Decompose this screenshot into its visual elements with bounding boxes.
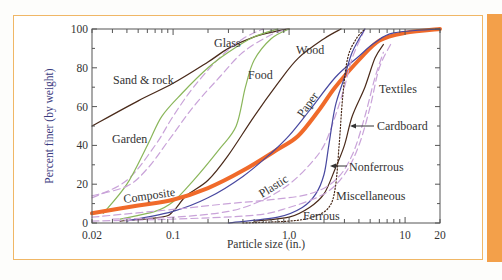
x-tick-label: 20 (434, 229, 446, 241)
label-food: Food (248, 68, 273, 82)
x-tick-label: 0.02 (82, 229, 102, 241)
y-tick-label: 100 (71, 23, 89, 35)
label-wood: Wood (296, 43, 324, 57)
x-tick-label: 10 (399, 229, 411, 241)
y-tick-label: 20 (77, 178, 89, 190)
label-textiles: Textiles (379, 82, 417, 96)
y-tick-label: 80 (77, 62, 89, 74)
label-miscellaneous: Miscellaneous (336, 189, 406, 203)
nonferrous-arrowhead (330, 164, 336, 169)
label-ferrous: Ferrous (303, 209, 340, 223)
label-cardboard: Cardboard (377, 119, 428, 133)
x-tick-label: 0.1 (166, 229, 181, 241)
x-axis-title: Particle size (in.) (227, 238, 305, 251)
curve-garden-dashed (92, 29, 289, 196)
label-nonferrous: Nonferrous (349, 160, 404, 174)
label-sand-rock: Sand & rock (113, 73, 174, 87)
y-tick-label: 40 (77, 139, 89, 151)
y-tick-label: 60 (77, 101, 89, 113)
label-glass: Glass (214, 36, 241, 50)
cardboard-arrowhead (350, 124, 356, 129)
y-tick-label: 0 (82, 217, 88, 229)
label-plastic: Plastic (256, 172, 291, 201)
label-garden: Garden (112, 132, 147, 146)
y-axis-title: Percent finer (by weight) (43, 68, 56, 183)
particle-size-chart: 020406080100 0.020.11.01020 Sand & rockG… (0, 0, 502, 280)
